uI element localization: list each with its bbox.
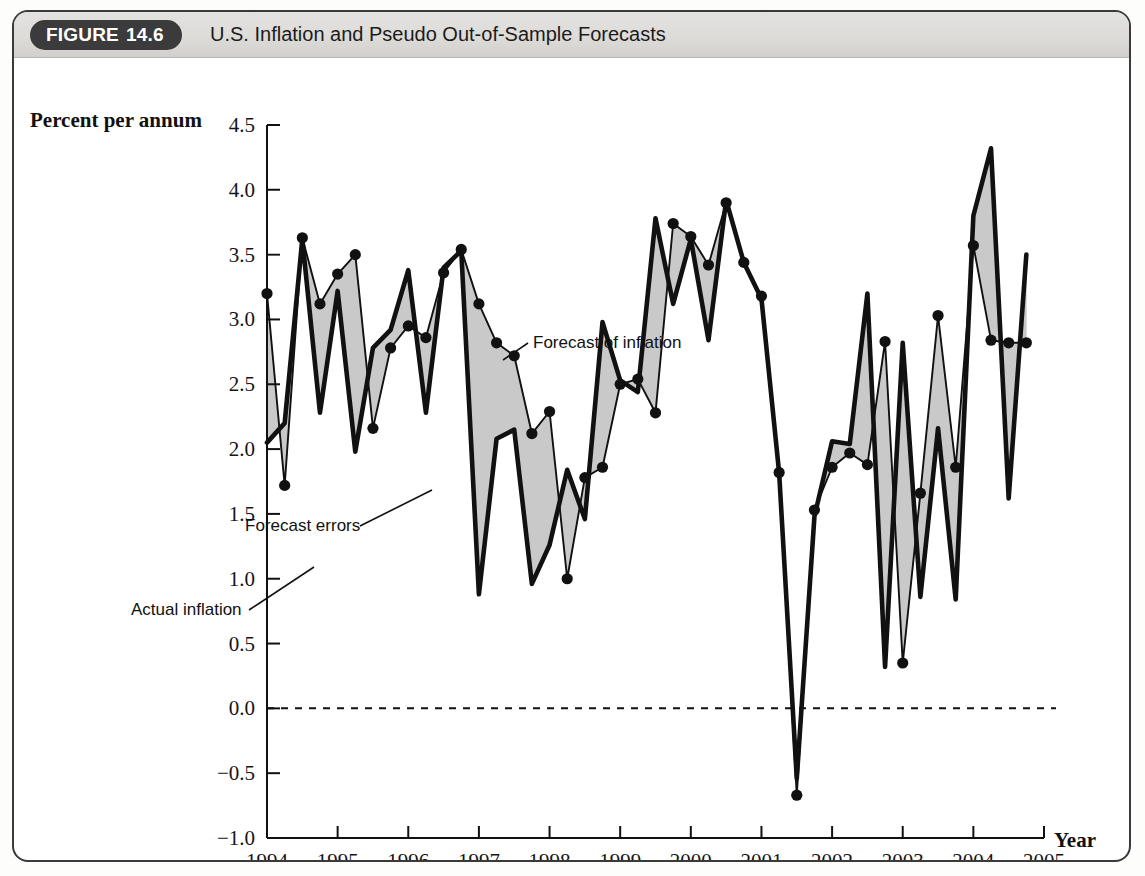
forecast-point-marker (332, 268, 343, 279)
forecast-point-marker (1021, 337, 1032, 348)
forecast-point-marker (562, 573, 573, 584)
annotation-forecast-of-inflation: Forecast of inflation (533, 333, 681, 352)
x-tick-label: 2005 (1023, 849, 1065, 862)
y-tick-label: 3.0 (229, 307, 255, 331)
forecast-point-marker (985, 335, 996, 346)
forecast-point-marker (650, 407, 661, 418)
figure-badge: FIGURE 14.6 (30, 20, 182, 50)
x-tick-label: 1995 (317, 849, 359, 862)
annotation-leader-forecast-errors (360, 490, 432, 526)
figure-root: FIGURE 14.6 U.S. Inflation and Pseudo Ou… (0, 0, 1145, 876)
forecast-point-marker (579, 472, 590, 483)
x-tick-label: 1998 (529, 849, 571, 862)
plot-area: Percent per annum Year 4.54.03.53.02.52.… (14, 58, 1129, 860)
forecast-point-marker (844, 447, 855, 458)
forecast-point-marker (403, 320, 414, 331)
x-tick-label: 1996 (387, 849, 429, 862)
y-tick-label: 3.5 (229, 243, 255, 267)
forecast-point-marker (703, 259, 714, 270)
forecast-point-marker (950, 462, 961, 473)
annotation-actual-inflation: Actual inflation (131, 600, 242, 619)
y-tick-label: 0.0 (229, 696, 255, 720)
annotation-leader-actual-inflation (249, 567, 314, 610)
forecast-point-marker (685, 231, 696, 242)
y-axis-tick-labels: 4.54.03.53.02.52.01.51.00.50.0−0.5−1.0 (217, 113, 255, 850)
forecast-point-marker (721, 197, 732, 208)
x-tick-label: 2004 (952, 849, 995, 862)
forecast-point-marker (438, 267, 449, 278)
x-tick-label: 2003 (882, 849, 924, 862)
x-tick-label: 1999 (599, 849, 641, 862)
figure-title: U.S. Inflation and Pseudo Out-of-Sample … (210, 23, 666, 46)
forecast-point-marker (809, 504, 820, 515)
forecast-point-marker (526, 428, 537, 439)
forecast-point-marker (456, 244, 467, 255)
forecast-point-marker (915, 488, 926, 499)
forecast-point-marker (544, 406, 555, 417)
forecast-point-marker (738, 257, 749, 268)
x-tick-label: 2000 (670, 849, 712, 862)
forecast-point-marker (668, 218, 679, 229)
forecast-point-marker (420, 332, 431, 343)
figure-frame: FIGURE 14.6 U.S. Inflation and Pseudo Ou… (12, 10, 1131, 862)
figure-badge-word: FIGURE (46, 24, 119, 46)
forecast-point-marker (1003, 337, 1014, 348)
forecast-point-marker (826, 462, 837, 473)
figure-badge-number: 14.6 (126, 24, 164, 46)
chart-svg: 4.54.03.53.02.52.01.51.00.50.0−0.5−1.0 1… (14, 58, 1131, 862)
forecast-point-marker (491, 337, 502, 348)
forecast-point-marker (314, 298, 325, 309)
annotation-forecast-errors: Forecast errors (245, 516, 360, 535)
forecast-point-marker (297, 232, 308, 243)
forecast-point-marker (615, 379, 626, 390)
y-tick-label: 0.5 (229, 632, 255, 656)
actual-inflation-line (267, 148, 1026, 778)
forecast-point-marker (968, 240, 979, 251)
x-axis-tick-labels: 1994199519961997199819992000200120022003… (246, 849, 1065, 862)
x-tick-label: 1994 (246, 849, 289, 862)
figure-header-band: FIGURE 14.6 U.S. Inflation and Pseudo Ou… (14, 12, 1129, 58)
y-tick-label: −1.0 (217, 826, 255, 850)
forecast-point-marker (756, 291, 767, 302)
forecast-point-marker (367, 423, 378, 434)
forecast-point-marker (350, 249, 361, 260)
y-tick-label: 2.0 (229, 437, 255, 461)
forecast-point-marker (897, 657, 908, 668)
forecast-point-marker (879, 336, 890, 347)
y-tick-label: 4.5 (229, 113, 255, 137)
x-tick-label: 2001 (740, 849, 782, 862)
forecast-point-marker (632, 373, 643, 384)
forecast-point-marker (279, 480, 290, 491)
y-tick-label: 2.5 (229, 372, 255, 396)
forecast-point-marker (862, 459, 873, 470)
y-tick-label: −0.5 (217, 761, 255, 785)
y-tick-label: 4.0 (229, 178, 255, 202)
forecast-point-marker (791, 790, 802, 801)
forecast-point-marker (385, 342, 396, 353)
x-tick-label: 1997 (458, 849, 500, 862)
forecast-point-marker (473, 298, 484, 309)
y-tick-label: 1.0 (229, 567, 255, 591)
forecast-point-marker (774, 467, 785, 478)
forecast-point-marker (261, 288, 272, 299)
forecast-point-marker (597, 462, 608, 473)
forecast-point-marker (932, 310, 943, 321)
x-tick-label: 2002 (811, 849, 853, 862)
